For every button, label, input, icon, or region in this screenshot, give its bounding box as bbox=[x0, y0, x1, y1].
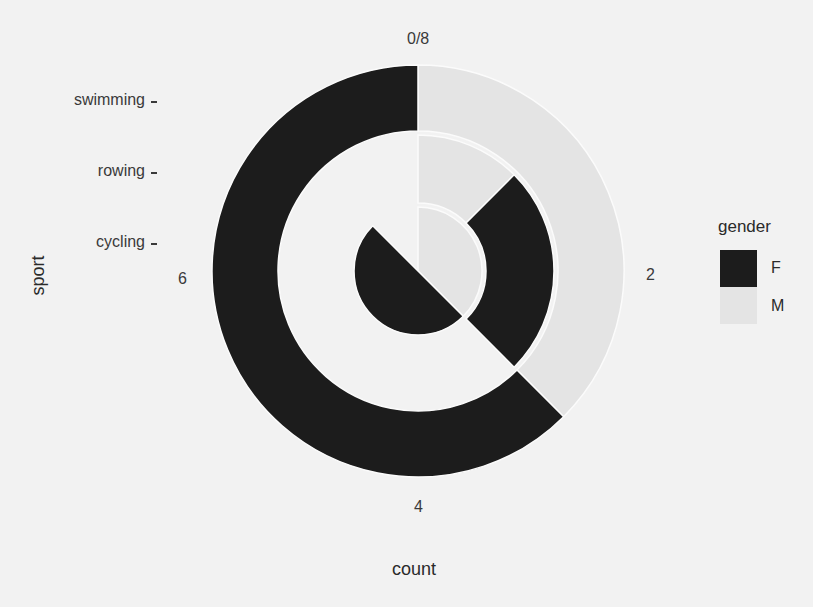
y-axis-title: sport bbox=[28, 255, 49, 295]
sport-tick-swimming bbox=[151, 101, 157, 103]
sport-label-rowing: rowing bbox=[5, 162, 145, 180]
legend-title: gender bbox=[718, 217, 771, 237]
legend-key-M bbox=[720, 287, 757, 324]
legend-key-F bbox=[720, 250, 757, 287]
legend-label-M: M bbox=[771, 297, 784, 315]
theta-tick-6: 6 bbox=[178, 270, 187, 288]
sport-label-cycling: cycling bbox=[5, 233, 145, 251]
x-axis-title: count bbox=[392, 559, 436, 580]
polar-rings bbox=[212, 65, 624, 477]
legend-label-F: F bbox=[771, 259, 781, 277]
theta-tick-4: 4 bbox=[414, 498, 423, 516]
sport-label-swimming: swimming bbox=[5, 91, 145, 109]
sport-tick-rowing bbox=[151, 172, 157, 174]
theta-tick-0: 0/8 bbox=[407, 30, 429, 48]
theta-tick-2: 2 bbox=[646, 266, 655, 284]
sport-tick-cycling bbox=[151, 243, 157, 245]
